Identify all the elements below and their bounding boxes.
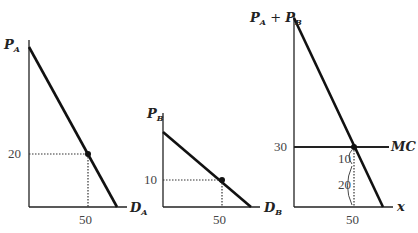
x-label-a: DA (129, 200, 148, 217)
x-label-c: x (396, 199, 405, 214)
mc-label: MC (390, 139, 416, 154)
y-tick-c: 30 (274, 139, 287, 154)
panel-demand-a: PA 20 50 DA (3, 37, 148, 227)
x-tick-c: 50 (346, 212, 359, 227)
panel-demand-b: PB 10 50 DB (144, 106, 282, 227)
y-label-a: PA (3, 37, 20, 54)
x-tick-b: 50 (213, 212, 226, 227)
y-label-c: PA + PB (249, 10, 302, 27)
bracket-label-bottom: 20 (338, 177, 351, 192)
equilibrium-dot-c (351, 144, 357, 150)
x-label-b: DB (263, 200, 282, 217)
equilibrium-dot-b (219, 177, 225, 183)
y-tick-a: 20 (8, 146, 21, 161)
equilibrium-dot-a (85, 151, 91, 157)
demand-curve-a (29, 47, 117, 207)
public-good-diagram: PA 20 50 DA PB 10 50 DB PA + PB 30 10 20… (0, 0, 418, 233)
y-tick-b: 10 (144, 172, 157, 187)
panel-summed-demand: PA + PB 30 10 20 50 MC x (249, 10, 416, 227)
bracket-label-top: 10 (338, 151, 351, 166)
x-tick-a: 50 (79, 212, 92, 227)
demand-curve-b (163, 132, 251, 207)
y-label-b: PB (146, 106, 164, 123)
